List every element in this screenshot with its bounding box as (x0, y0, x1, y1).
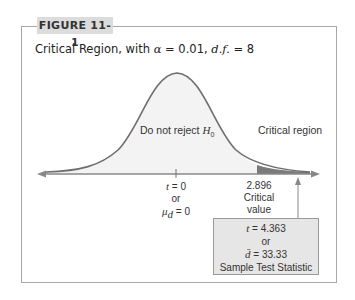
critical-region-label: Critical region (258, 124, 322, 136)
axis-left-arrow-icon (37, 171, 46, 178)
critical-value-label: 2.896 Critical value (238, 180, 280, 216)
center-axis-label: t = 0 or μd = 0 (156, 180, 196, 222)
do-not-reject-label: Do not reject H0 (140, 124, 214, 141)
sample-test-statistic-box: t = 4.363 or d̄ = 33.33 Sample Test Stat… (213, 218, 319, 275)
statistic-pointer-arrow-icon (295, 177, 301, 185)
axis-right-arrow-icon (311, 171, 320, 178)
